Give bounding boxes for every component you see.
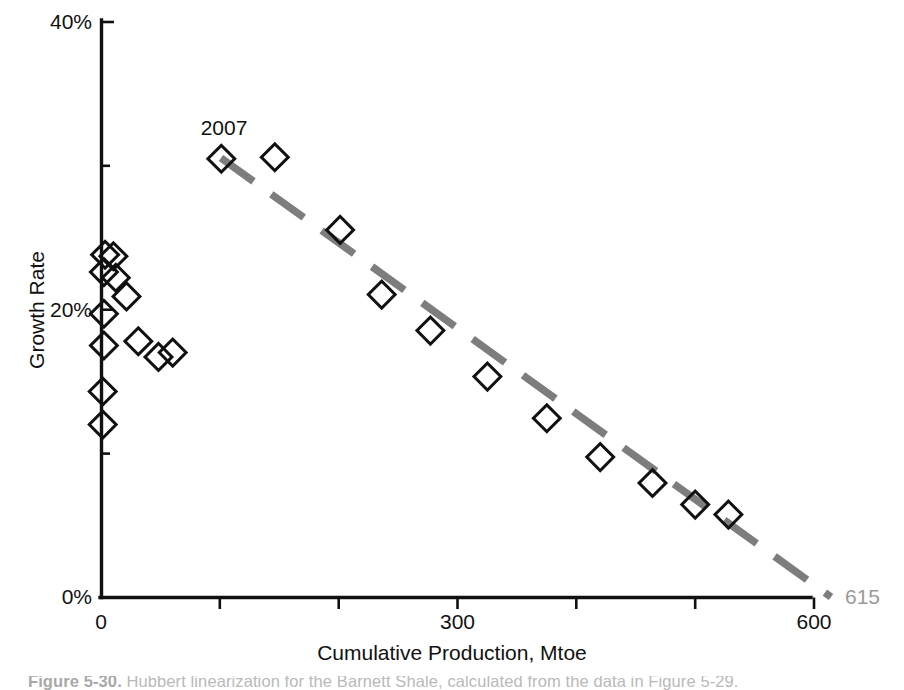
- data-point: [587, 444, 614, 471]
- y-axis-label-20: 20%: [50, 298, 92, 321]
- y-axis-title: Growth Rate: [25, 251, 48, 369]
- data-point-markers: [89, 144, 742, 528]
- peak-year-annotation: 2007: [201, 116, 248, 139]
- y-axis-label-0: 0%: [62, 585, 92, 608]
- figure-caption: Figure 5-30. Hubbert linearization for t…: [0, 676, 904, 690]
- x-axis-label-0: 0: [95, 610, 107, 633]
- data-point: [639, 470, 666, 497]
- x-axis-ticks: [220, 598, 814, 610]
- data-point: [90, 259, 117, 286]
- x-axis-title: Cumulative Production, Mtoe: [317, 641, 587, 664]
- x-axis-label-300: 300: [440, 610, 475, 633]
- trend-line-group: [221, 158, 831, 597]
- data-point: [90, 300, 117, 327]
- data-point: [417, 317, 444, 344]
- figure-caption-line: Figure 5-30. Hubbert linearization for t…: [28, 676, 739, 690]
- data-point: [261, 144, 288, 171]
- data-point: [159, 339, 186, 366]
- x-axis-label-600: 600: [796, 610, 831, 633]
- x-intercept-annotation: 615: [845, 585, 880, 608]
- data-point: [533, 405, 560, 432]
- figure-caption-body: Hubbert linearization for the Barnett Sh…: [127, 676, 739, 690]
- data-point: [113, 283, 140, 310]
- hubbert-trend-line: [221, 158, 831, 597]
- data-point: [145, 343, 172, 370]
- data-point: [474, 363, 501, 390]
- hubbert-linearization-chart: 40% 20% 0% 0 300 600 Growth Rate Cumulat…: [0, 0, 904, 690]
- data-point: [125, 328, 152, 355]
- data-point: [90, 332, 117, 359]
- figure-caption-number: Figure 5-30.: [28, 676, 122, 690]
- data-point: [368, 281, 395, 308]
- figure-root: 40% 20% 0% 0 300 600 Growth Rate Cumulat…: [0, 0, 904, 690]
- y-axis-label-40: 40%: [50, 10, 92, 33]
